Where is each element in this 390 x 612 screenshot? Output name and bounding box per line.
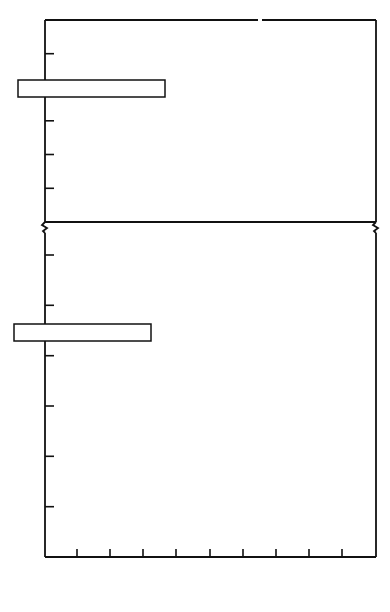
- top-ylabel-box: [18, 80, 165, 97]
- bottom-y-ticks: [45, 255, 54, 507]
- left-axis-break-icon: [42, 222, 47, 233]
- chart-figure: [0, 0, 390, 612]
- bottom-ylabel-box: [14, 324, 151, 341]
- right-axis-break-icon: [373, 222, 378, 233]
- x-ticks: [77, 549, 342, 557]
- top-y-ticks: [45, 54, 54, 189]
